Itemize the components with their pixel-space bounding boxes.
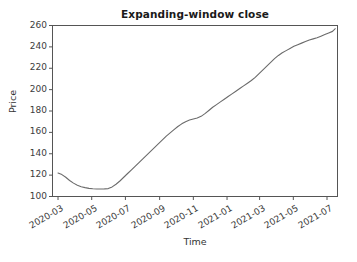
- y-tick-label: 140: [19, 148, 47, 158]
- y-tick-label: 160: [19, 126, 47, 136]
- y-tick-label: 200: [19, 84, 47, 94]
- y-tick-label: 100: [19, 191, 47, 201]
- y-tick-label: 220: [19, 62, 47, 72]
- y-tick-label: 260: [19, 20, 47, 30]
- y-tick-label: 180: [19, 105, 47, 115]
- axes-spines: [53, 26, 338, 197]
- chart-figure: Expanding-window close Price Time 100120…: [0, 0, 357, 262]
- y-tick-label: 120: [19, 169, 47, 179]
- y-tick-label: 240: [19, 41, 47, 51]
- x-axis-ticks: [58, 197, 327, 201]
- y-axis-ticks: [49, 26, 53, 197]
